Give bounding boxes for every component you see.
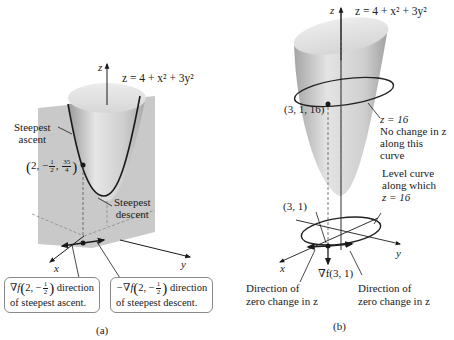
x-axis-b bbox=[280, 218, 378, 262]
level-curve-line1: Level curve bbox=[382, 167, 436, 179]
surface-point bbox=[81, 163, 86, 168]
point-2d-leader bbox=[316, 212, 326, 243]
gradient-label-b: ∇f(3, 1) bbox=[318, 267, 353, 279]
zero-change-right-line2: zero change in z bbox=[358, 295, 430, 308]
level-curve-line3: z = 16 bbox=[382, 191, 436, 203]
steepest-ascent-line2: ascent bbox=[14, 133, 51, 145]
z-axis-label-b: z bbox=[330, 4, 334, 16]
descent-box-line2: of steepest descent. bbox=[116, 296, 207, 309]
point-3d bbox=[326, 102, 331, 107]
point-2d-label: (3, 1) bbox=[283, 200, 307, 212]
close-paren: ) bbox=[72, 159, 77, 175]
level-curve-line2: along which bbox=[382, 179, 436, 191]
gradient-descent-box: −∇f(2, −12) direction of steepest descen… bbox=[110, 277, 213, 313]
steepest-ascent-line1: Steepest bbox=[14, 121, 51, 133]
no-change-line2: along this bbox=[380, 137, 446, 149]
point-3d-label-a: (2, −12, 354) bbox=[26, 159, 77, 174]
steepest-ascent-label: Steepest ascent bbox=[14, 121, 51, 145]
point-z-fraction: 354 bbox=[62, 159, 71, 174]
surface-equation-b: z = 4 + x² + 3y² bbox=[355, 5, 427, 17]
z16-label: z = 16 bbox=[380, 113, 446, 125]
left-zero-leader bbox=[300, 250, 315, 282]
x-axis-label-b: x bbox=[280, 262, 285, 274]
descent-box-leader bbox=[97, 242, 120, 278]
ascent-box-line1: ∇f(2, −12) direction bbox=[10, 281, 94, 296]
zero-change-left-line2: zero change in z bbox=[246, 295, 318, 308]
level-curve-label: Level curve along which z = 16 bbox=[382, 167, 436, 203]
no-change-label: z = 16 No change in z along this curve bbox=[380, 113, 446, 161]
y-axis-label-b: y bbox=[396, 247, 401, 259]
surface-equation-a: z = 4 + x² + 3y² bbox=[122, 72, 194, 84]
y-axis-label-a: y bbox=[181, 258, 186, 270]
zero-change-left-label: Direction of zero change in z bbox=[246, 282, 318, 308]
descent-box-line1: −∇f(2, −12) direction bbox=[116, 281, 207, 296]
y-axis-b bbox=[296, 220, 400, 244]
ascent-box-leader bbox=[72, 245, 79, 278]
steepest-descent-line1: Steepest bbox=[114, 196, 151, 208]
steepest-descent-label: Steepest descent bbox=[114, 196, 151, 220]
y-axis bbox=[120, 240, 190, 257]
zero-change-right-line1: Direction of bbox=[358, 282, 430, 295]
gradient-ascent-box: ∇f(2, −12) direction of steepest ascent. bbox=[4, 277, 100, 313]
point-x: 2, bbox=[31, 159, 39, 171]
caption-a: (a) bbox=[96, 324, 108, 336]
zero-change-left-line1: Direction of bbox=[246, 282, 318, 295]
point-3d-label-b: (3, 1, 16) bbox=[284, 103, 324, 115]
z-axis-label-a: z bbox=[98, 61, 102, 73]
no-change-line3: curve bbox=[380, 149, 446, 161]
zero-change-arrow-left bbox=[308, 246, 328, 247]
zero-change-right-label: Direction of zero change in z bbox=[358, 282, 430, 308]
ascent-box-line2: of steepest ascent. bbox=[10, 296, 94, 309]
point-y-sign: − bbox=[42, 159, 48, 171]
point-y-fraction: 12 bbox=[49, 159, 55, 174]
caption-b: (b) bbox=[333, 320, 346, 332]
x-axis-label-a: x bbox=[54, 262, 59, 274]
no-change-line1: No change in z bbox=[380, 125, 446, 137]
steepest-descent-line2: descent bbox=[114, 208, 151, 220]
